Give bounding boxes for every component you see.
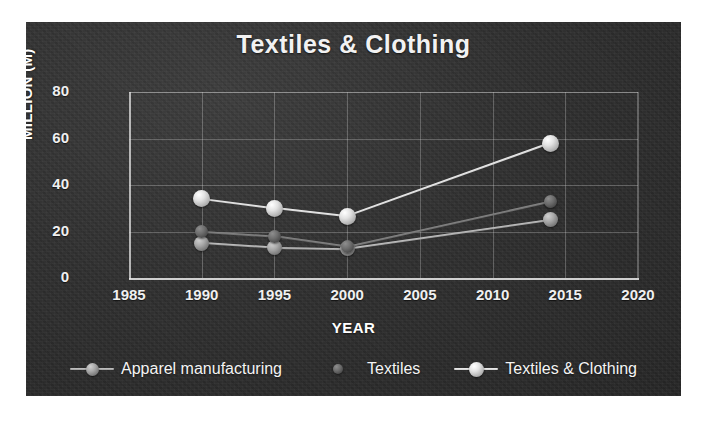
x-tick-label: 2000 [317, 286, 377, 303]
gridline-vertical [638, 92, 639, 278]
data-point-marker [544, 195, 557, 208]
x-tick-label: 2005 [390, 286, 450, 303]
x-tick-label: 1985 [99, 286, 159, 303]
data-point-marker [268, 230, 281, 243]
y-tick-label: 40 [29, 175, 69, 192]
chart-panel: Textiles & Clothing MILLION (M) YEAR 020… [26, 22, 681, 396]
legend-label: Textiles [367, 360, 420, 378]
series-line-segment [202, 242, 275, 249]
x-tick-label: 2015 [535, 286, 595, 303]
legend-marker-apparel [70, 361, 114, 377]
legend-marker-textiles-clothing [454, 361, 498, 377]
y-tick-label: 20 [29, 222, 69, 239]
legend-marker-textiles [316, 361, 360, 377]
series-line-segment [274, 207, 347, 217]
x-tick-label: 2020 [608, 286, 668, 303]
x-tick-label: 1995 [244, 286, 304, 303]
x-tick-label: 2010 [463, 286, 523, 303]
x-axis-line [129, 278, 639, 280]
x-axis-title: YEAR [26, 319, 681, 336]
y-axis-line [129, 92, 131, 279]
plot-area [129, 92, 638, 278]
legend-label: Apparel manufacturing [121, 360, 282, 378]
data-point-marker [543, 212, 558, 227]
gridline-horizontal [129, 139, 638, 140]
legend-item[interactable]: Apparel manufacturing [70, 360, 282, 378]
data-point-marker [195, 225, 208, 238]
legend-label: Textiles & Clothing [505, 360, 637, 378]
data-point-marker [193, 190, 210, 207]
chart-title: Textiles & Clothing [26, 30, 681, 59]
plot-right-border [637, 92, 638, 278]
plot-top-border [129, 92, 638, 93]
legend-item[interactable]: Textiles & Clothing [454, 360, 637, 378]
y-tick-label: 0 [29, 268, 69, 285]
legend-marker-dot [469, 362, 484, 377]
legend-marker-dot [86, 363, 99, 376]
data-point-marker [542, 135, 559, 152]
series-line-segment [202, 198, 275, 209]
gridline-horizontal [129, 185, 638, 186]
series-line-segment [274, 247, 347, 250]
series-line-segment [274, 235, 347, 247]
legend-item[interactable]: Textiles [316, 360, 420, 378]
data-point-marker [266, 200, 283, 217]
y-tick-label: 80 [29, 82, 69, 99]
data-point-marker [341, 240, 354, 253]
data-point-marker [339, 208, 356, 225]
chart-legend: Apparel manufacturingTextilesTextiles & … [26, 352, 681, 386]
y-tick-label: 60 [29, 129, 69, 146]
x-tick-label: 1990 [172, 286, 232, 303]
legend-marker-dot [333, 364, 343, 374]
series-line-segment [347, 142, 551, 217]
chart-page: Textiles & Clothing MILLION (M) YEAR 020… [0, 0, 706, 423]
